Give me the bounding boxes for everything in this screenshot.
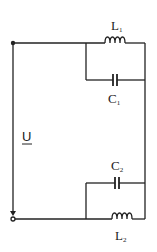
inductor-L2 xyxy=(112,213,132,219)
label-L1: L1 xyxy=(111,18,123,34)
label-L2: L2 xyxy=(115,228,127,244)
voltage-label: U xyxy=(22,129,31,144)
inductor-L1 xyxy=(105,37,125,43)
arrow-head-icon xyxy=(10,211,16,216)
terminal-bottom xyxy=(11,217,15,221)
label-C2: C2 xyxy=(111,158,124,174)
label-C1: C1 xyxy=(108,91,121,107)
circuit-diagram: U L1 C1 C2 L2 xyxy=(0,0,157,252)
terminal-top xyxy=(11,41,15,45)
